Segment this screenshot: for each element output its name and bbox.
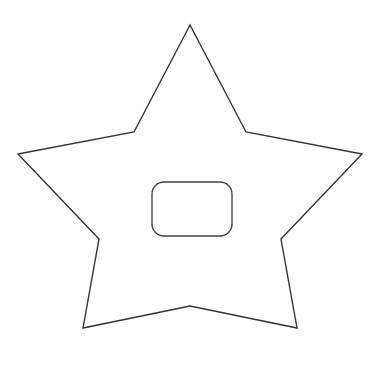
- inner-rounded-box: [152, 182, 232, 236]
- star-shape: [18, 25, 362, 328]
- diagram-canvas: [0, 0, 385, 382]
